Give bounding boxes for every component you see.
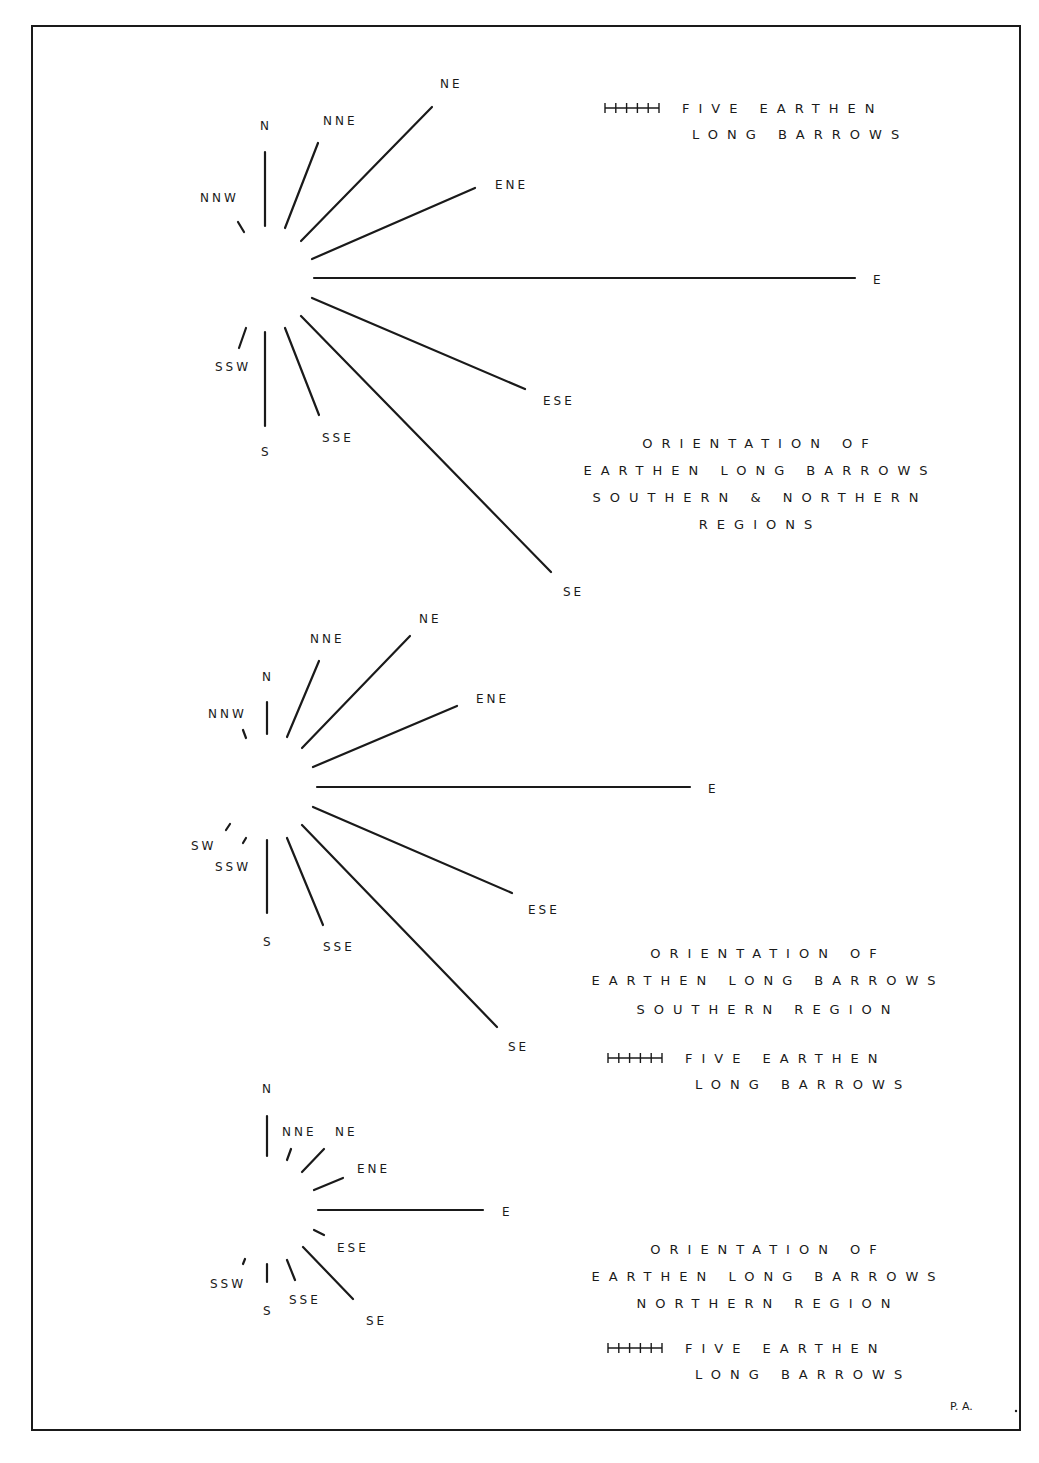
direction-label-nne: NNE <box>310 632 345 646</box>
direction-label-ne: NE <box>335 1125 358 1139</box>
direction-label-nne: NNE <box>323 114 358 128</box>
direction-label-ene: ENE <box>476 692 509 706</box>
ray-sse <box>287 838 323 925</box>
diagram-title-line: ORIENTATION OF <box>650 1242 885 1257</box>
scale-bar-icon <box>608 1343 662 1353</box>
direction-label-ese: ESE <box>543 394 575 408</box>
ray-ese <box>313 807 512 893</box>
key-label-line2: LONG BARROWS <box>692 127 908 142</box>
diagram-title-line: REGIONS <box>699 517 821 532</box>
direction-label-ne: NE <box>440 77 463 91</box>
key-label-line1: FIVE EARTHEN <box>685 1051 886 1066</box>
ray-ene <box>312 188 475 259</box>
direction-label-s: S <box>261 445 272 459</box>
key-label-line2: LONG BARROWS <box>695 1077 911 1092</box>
ray-sse <box>287 1260 295 1280</box>
direction-label-ese: ESE <box>337 1241 369 1255</box>
direction-label-ssw: SSW <box>210 1277 246 1291</box>
ray-ese <box>314 1230 324 1235</box>
direction-label-e: E <box>502 1205 513 1219</box>
scale-bar-icon <box>605 103 659 113</box>
direction-label-e: E <box>708 782 719 796</box>
direction-label-s: S <box>263 1304 274 1318</box>
diagram-title-line: SOUTHERN & NORTHERN <box>593 490 928 505</box>
diagram-southern: NNWNNNENEENEEESESESSESSSWSWORIENTATION O… <box>191 612 945 1092</box>
diagram-title-line: ORIENTATION OF <box>650 946 885 961</box>
direction-label-sse: SSE <box>322 431 354 445</box>
direction-label-n: N <box>262 670 274 684</box>
direction-label-e: E <box>873 273 884 287</box>
direction-label-sse: SSE <box>289 1293 321 1307</box>
direction-label-s: S <box>263 935 274 949</box>
direction-label-ssw: SSW <box>215 360 251 374</box>
ray-nnw <box>243 730 246 738</box>
scale-bar-icon <box>608 1053 662 1063</box>
diagram-northern: NNNENEENEEESESESSESSSWORIENTATION OFEART… <box>210 1082 945 1382</box>
direction-label-sw: SW <box>191 839 216 853</box>
ray-ssw <box>243 838 246 843</box>
direction-label-nne: NNE <box>282 1125 317 1139</box>
direction-label-ene: ENE <box>495 178 528 192</box>
key-label-line1: FIVE EARTHEN <box>685 1341 886 1356</box>
ray-ne <box>301 107 432 241</box>
direction-label-se: SE <box>366 1314 387 1328</box>
direction-label-se: SE <box>563 585 584 599</box>
direction-label-nnw: NNW <box>208 707 247 721</box>
ray-ssw <box>239 328 246 348</box>
direction-label-ese: ESE <box>528 903 560 917</box>
ray-sse <box>285 328 319 415</box>
signature: P. A. <box>950 1400 973 1413</box>
direction-label-nnw: NNW <box>200 191 239 205</box>
ray-se <box>302 825 497 1027</box>
ray-sw <box>226 824 230 830</box>
ray-nnw <box>238 222 244 232</box>
ray-ne <box>302 1149 324 1172</box>
ray-ese <box>312 298 525 389</box>
stray-dot <box>1015 1410 1017 1412</box>
diagram-title-line: EARTHEN LONG BARROWS <box>583 463 936 478</box>
direction-label-ene: ENE <box>357 1162 390 1176</box>
orientation-diagrams: NNWNNNENEENEEESESESSESSSWORIENTATION OFE… <box>0 0 1039 1463</box>
direction-label-n: N <box>260 119 272 133</box>
ray-nne <box>287 661 319 737</box>
diagram-title-line: EARTHEN LONG BARROWS <box>591 973 944 988</box>
ray-ene <box>314 1178 343 1190</box>
direction-label-sse: SSE <box>323 940 355 954</box>
diagram-title-line: SOUTHERN REGION <box>637 1002 900 1017</box>
key-label-line1: FIVE EARTHEN <box>682 101 883 116</box>
direction-label-ssw: SSW <box>215 860 251 874</box>
diagram-title-line: ORIENTATION OF <box>642 436 877 451</box>
ray-nne <box>285 143 318 228</box>
diagram-title-line: EARTHEN LONG BARROWS <box>591 1269 944 1284</box>
direction-label-se: SE <box>508 1040 529 1054</box>
direction-label-n: N <box>262 1082 274 1096</box>
ray-nne <box>287 1149 291 1160</box>
diagram-title-line: NORTHERN REGION <box>637 1296 900 1311</box>
ray-ssw <box>243 1259 245 1264</box>
key-label-line2: LONG BARROWS <box>695 1367 911 1382</box>
diagram-combined: NNWNNNENEENEEESESESSESSSWORIENTATION OFE… <box>200 77 937 599</box>
direction-label-ne: NE <box>419 612 442 626</box>
ray-ne <box>302 636 410 748</box>
